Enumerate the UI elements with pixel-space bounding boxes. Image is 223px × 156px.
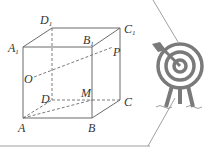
label-p: P: [112, 45, 121, 59]
label-a1: A1: [7, 41, 19, 56]
label-b1: B1: [83, 33, 94, 48]
label-b: B: [88, 121, 96, 135]
label-d1: D1: [39, 13, 52, 28]
label-c1: C1: [124, 22, 136, 37]
label-a: A: [17, 121, 26, 135]
cube-hidden-edges: [23, 28, 120, 118]
label-o: O: [24, 72, 33, 86]
label-m: M: [80, 86, 92, 100]
cube-solid-edges: [23, 28, 120, 118]
frame-line-top: [153, 0, 178, 42]
cube-diagram: D1 A1 B1 C1 P O D M C A B: [0, 0, 223, 156]
label-c: C: [124, 95, 133, 109]
target-icon: [152, 42, 202, 109]
frame-line-bottom: [148, 98, 175, 146]
label-d: D: [40, 92, 50, 106]
